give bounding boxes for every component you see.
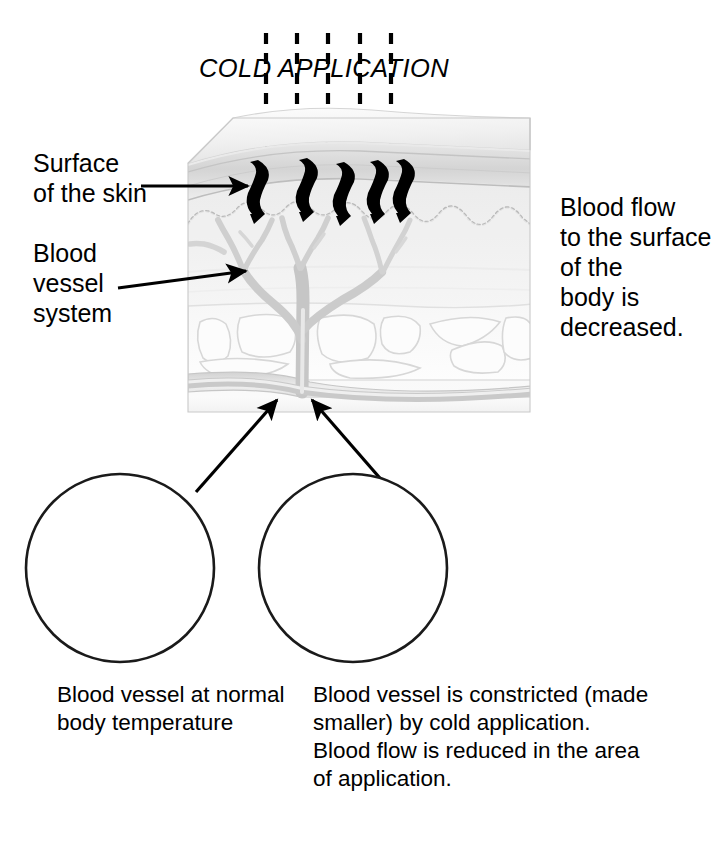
diagram-page: COLD APPLICATION	[0, 0, 716, 859]
right-caption-line4: of application.	[313, 766, 452, 791]
inset-constricted-vessel	[252, 436, 447, 662]
vessel-label-line2: vessel	[33, 269, 104, 297]
note-blood-flow-decreased: Blood flow to the surface of the body is…	[560, 193, 711, 341]
left-inset-outline	[26, 474, 214, 662]
vessel-label-line1: Blood	[33, 239, 97, 267]
right-inset-outline	[259, 474, 447, 662]
normal-fork-left	[82, 440, 110, 470]
skin-cross-section-block	[188, 108, 532, 412]
note-line2: to the surface	[560, 223, 711, 251]
right-caption-line2: smaller) by cold application.	[313, 710, 591, 735]
caption-right-inset: Blood vessel is constricted (made smalle…	[313, 682, 648, 791]
caption-left-inset: Blood vessel at normal body temperature	[57, 682, 285, 735]
fat-lobule	[317, 315, 376, 362]
note-line1: Blood flow	[560, 193, 676, 221]
constricted-fork-left	[314, 437, 339, 468]
note-line3: of the	[560, 253, 623, 281]
fat-lobules	[198, 314, 532, 378]
left-caption-line2: body temperature	[57, 710, 233, 735]
inset-normal-vessel	[16, 436, 214, 662]
page-title: COLD APPLICATION	[199, 54, 449, 82]
note-line4: body is	[560, 283, 639, 311]
left-caption-line1: Blood vessel at normal	[57, 682, 285, 707]
surface-label-line1: Surface	[33, 149, 119, 177]
fat-lobule	[198, 318, 231, 362]
vessel-trunk-highlight	[302, 310, 303, 392]
right-caption-line1: Blood vessel is constricted (made	[313, 682, 648, 707]
vessel-label-line3: system	[33, 299, 112, 327]
fat-lobule	[450, 342, 505, 373]
note-line5: decreased.	[560, 313, 684, 341]
surface-label-line2: of the skin	[33, 179, 147, 207]
connector-arrow-left	[196, 400, 277, 492]
right-caption-line3: Blood flow is reduced in the area	[313, 738, 640, 763]
fat-lobule	[502, 317, 532, 360]
fat-lobule	[380, 316, 420, 354]
cold-application-figure: COLD APPLICATION	[0, 0, 716, 859]
normal-fork-right	[112, 436, 126, 470]
